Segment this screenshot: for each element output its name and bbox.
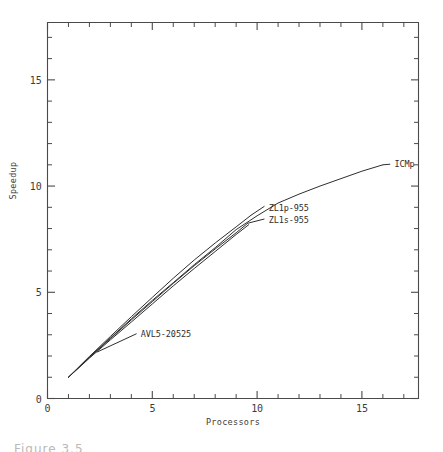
axes-frame xyxy=(48,23,419,399)
series-label-avl5-20525: AVL5-20525 xyxy=(141,329,191,339)
figure-caption-partial: Figure 3.5 xyxy=(14,442,84,452)
leader-line-zl1p-955 xyxy=(251,206,265,215)
series-line-avl5-20525 xyxy=(68,225,248,378)
plot-frame xyxy=(48,23,419,399)
series-label-zl1s-955: ZL1s-955 xyxy=(269,215,309,225)
y-tick-label: 5 xyxy=(36,287,42,298)
data-series-lines xyxy=(68,165,382,377)
y-tick-label: 15 xyxy=(30,75,42,86)
axis-tick-labels: 051015051015 xyxy=(30,75,368,414)
series-leader-lines xyxy=(97,164,390,352)
leader-line-avl5-20525 xyxy=(97,334,137,352)
series-labels: ICMpZL1p-955ZL1s-955AVL5-20525 xyxy=(141,159,415,339)
x-tick-label: 0 xyxy=(45,403,51,414)
leader-line-zl1s-955 xyxy=(248,219,265,223)
axis-titles: ProcessorsSpeedup xyxy=(8,162,260,427)
y-tick-label: 10 xyxy=(30,181,42,192)
x-tick-label: 10 xyxy=(251,403,263,414)
x-tick-label: 5 xyxy=(149,403,155,414)
series-line-icmp xyxy=(68,165,382,377)
series-label-zl1p-955: ZL1p-955 xyxy=(269,203,309,213)
y-tick-label: 0 xyxy=(36,394,42,405)
x-axis-title: Processors xyxy=(206,417,260,427)
leader-line-icmp xyxy=(383,164,390,165)
axis-ticks xyxy=(48,23,419,399)
series-label-icmp: ICMp xyxy=(394,159,414,169)
x-tick-label: 15 xyxy=(356,403,368,414)
y-axis-title: Speedup xyxy=(8,162,18,200)
